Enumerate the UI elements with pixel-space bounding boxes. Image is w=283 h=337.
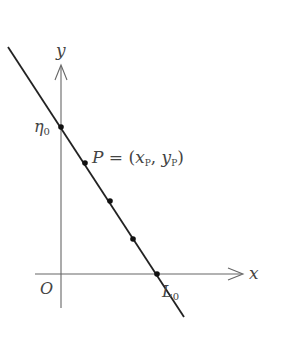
point-p-eq: = (	[103, 147, 135, 167]
x-axis-label: x	[249, 263, 259, 283]
point-4	[130, 236, 136, 242]
point-p-label: P = (xP, yP)	[91, 147, 184, 168]
point-p-y: y	[161, 147, 172, 167]
point-p	[82, 160, 88, 166]
point-x-intercept	[154, 271, 160, 277]
y-intercept-main: η	[34, 117, 44, 136]
x-intercept-label: L0	[161, 282, 179, 302]
point-p-name: P	[91, 147, 104, 167]
point-y-intercept	[58, 124, 64, 130]
point-p-comma: ,	[151, 147, 162, 167]
y-intercept-sub: 0	[44, 126, 50, 137]
y-intercept-label: η0	[34, 117, 50, 137]
diagram-canvas: y x O η0 L0 P = (xP, yP)	[0, 0, 283, 337]
point-p-close: )	[177, 147, 184, 167]
origin-label: O	[40, 279, 53, 298]
x-intercept-main: L	[161, 282, 173, 301]
y-axis-label: y	[55, 40, 66, 60]
point-3	[107, 198, 113, 204]
point-p-x: x	[135, 147, 145, 167]
x-intercept-sub: 0	[173, 291, 179, 302]
